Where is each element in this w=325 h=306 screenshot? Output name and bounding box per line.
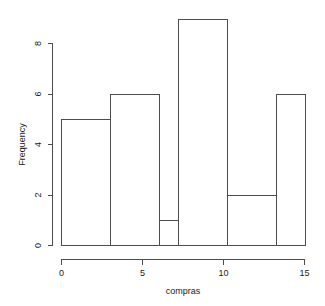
x-tick-label-15: 15 — [299, 268, 309, 278]
histogram-plot: 8 6 4 2 0 Frequency 0 5 10 15 compras — [0, 0, 325, 306]
bar-0-3 — [61, 119, 110, 245]
chart-canvas: 8 6 4 2 0 Frequency 0 5 10 15 compras — [0, 0, 325, 306]
y-tick-label-2: 2 — [33, 192, 43, 197]
bar-6-7 — [159, 220, 178, 245]
y-axis-title: Frequency — [17, 123, 27, 166]
bar-series — [61, 19, 305, 245]
y-tick-label-4: 4 — [33, 142, 43, 147]
x-tick-label-0: 0 — [59, 268, 64, 278]
y-tick-label-8: 8 — [33, 41, 43, 46]
x-tick-label-10: 10 — [218, 268, 228, 278]
bar-13-15 — [276, 94, 305, 245]
x-tick-label-5: 5 — [140, 268, 145, 278]
x-axis: 0 5 10 15 compras — [59, 260, 310, 297]
y-tick-label-0: 0 — [33, 243, 43, 248]
bar-3-6 — [110, 94, 159, 245]
bar-7-10 — [178, 19, 227, 245]
y-axis: 8 6 4 2 0 Frequency — [17, 41, 53, 248]
x-axis-title: compras — [166, 286, 201, 296]
bar-10-13 — [227, 195, 276, 245]
y-tick-label-6: 6 — [33, 91, 43, 96]
